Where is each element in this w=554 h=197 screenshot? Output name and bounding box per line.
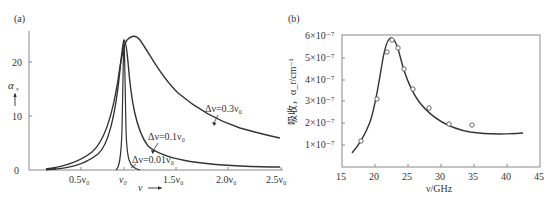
x-tick-40: 40 <box>501 171 511 182</box>
svg-text:Δν=0.01ν₀: Δν=0.01ν₀ <box>132 154 175 165</box>
y-tick-6e-7: 6×10⁻⁷ <box>305 30 335 41</box>
arrowhead-icon <box>212 122 217 126</box>
curve-dnu-0.1 <box>46 40 280 170</box>
annotation-dnu-0.1: Δν=0.1ν₀ <box>148 131 186 154</box>
svg-text:Δν=0.1ν₀: Δν=0.1ν₀ <box>148 131 186 142</box>
data-point <box>385 50 389 54</box>
x-tick-20: 20 <box>369 171 379 182</box>
data-point <box>470 123 474 127</box>
data-point <box>359 139 363 143</box>
panel-a: (a) 0 10 20 α ν 0.5ν₀ ν₀ 1.5ν₀ <box>8 13 287 193</box>
curve-tail-overlap <box>46 169 56 170</box>
arrowhead-icon <box>13 93 16 98</box>
y-tick-1e-7: 1×10⁻⁷ <box>305 139 335 150</box>
x-tick-2.0: 2.0ν₀ <box>216 174 237 185</box>
panel-b-y-axis-label: 吸收，α_r/cm⁻¹ <box>286 58 298 125</box>
y-tick-4e-7: 4×10⁻⁷ <box>305 74 335 85</box>
data-point <box>390 38 394 42</box>
panel-b-label: (b) <box>288 13 300 25</box>
data-point <box>411 87 415 91</box>
x-tick-1.5: 1.5ν₀ <box>163 174 184 185</box>
panel-a-x-axis-label: ν <box>138 182 163 193</box>
annotation-dnu-0.01: Δν=0.01ν₀ <box>131 154 175 168</box>
x-tick-2.5: 2.5ν₀ <box>266 174 287 185</box>
data-point <box>427 106 431 110</box>
arrowhead-icon <box>158 186 163 189</box>
data-point <box>402 67 406 71</box>
figure: (a) 0 10 20 α ν 0.5ν₀ ν₀ 1.5ν₀ <box>0 0 554 197</box>
panel-b: (b) 1×10⁻⁷ 2×10⁻⁷ 3×10⁻⁷ 4×10⁻⁷ 5×10⁻⁷ 6… <box>286 13 544 194</box>
x-tick-0.5: 0.5ν₀ <box>69 174 90 185</box>
panel-b-x-axis-label: ν/GHz <box>426 183 453 194</box>
x-tick-35: 35 <box>468 171 478 182</box>
x-tick-1.0: ν₀ <box>119 174 127 185</box>
y-tick-20: 20 <box>12 57 22 68</box>
panel-b-frame <box>342 35 540 167</box>
panel-a-label: (a) <box>14 13 25 25</box>
data-point <box>375 97 379 101</box>
x-tick-15: 15 <box>336 171 346 182</box>
svg-text:α: α <box>8 79 14 91</box>
x-tick-45: 45 <box>534 171 544 182</box>
y-tick-2e-7: 2×10⁻⁷ <box>305 117 335 128</box>
y-tick-5e-7: 5×10⁻⁷ <box>305 52 335 63</box>
y-tick-3e-7: 3×10⁻⁷ <box>305 95 335 106</box>
data-point <box>396 46 400 50</box>
panel-b-y-ticks: 1×10⁻⁷ 2×10⁻⁷ 3×10⁻⁷ 4×10⁻⁷ 5×10⁻⁷ 6×10⁻… <box>305 30 345 150</box>
y-tick-0: 0 <box>14 165 19 176</box>
curve-dnu-0.3 <box>46 36 280 169</box>
svg-text:ν: ν <box>138 182 143 193</box>
svg-text:ν: ν <box>16 86 19 92</box>
panel-a-y-axis-label: α ν <box>8 79 19 106</box>
x-tick-25: 25 <box>402 171 412 182</box>
data-point <box>447 122 451 126</box>
panel-b-data-points <box>359 38 474 143</box>
svg-text:Δν=0.3ν₀: Δν=0.3ν₀ <box>205 103 243 114</box>
y-tick-10: 10 <box>12 111 22 122</box>
annotation-dnu-0.3: Δν=0.3ν₀ <box>205 103 243 126</box>
x-tick-30: 30 <box>435 171 445 182</box>
panel-b-theory-curve <box>352 38 523 153</box>
